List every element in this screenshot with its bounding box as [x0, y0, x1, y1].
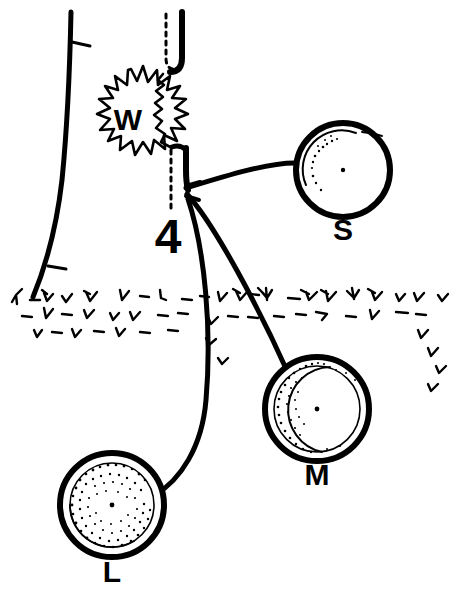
- circle-M-label: M: [305, 458, 330, 491]
- circle-S-label: S: [333, 213, 353, 246]
- wound-label: W: [114, 103, 143, 136]
- tree-wound-diagram: S: [0, 0, 465, 599]
- circle-L-label: L: [103, 555, 121, 588]
- figure-canvas: S: [0, 0, 465, 599]
- step-number-label: 4: [155, 210, 182, 263]
